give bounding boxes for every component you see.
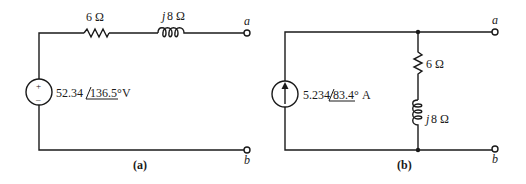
source-b-unit: A (362, 88, 371, 102)
caption-b: (b) (397, 158, 412, 172)
inductor-b (413, 100, 422, 150)
source-a-magnitude: 52.34 (56, 86, 83, 100)
terminal-a-label: a (244, 14, 250, 28)
wire-a-bottom (39, 105, 244, 150)
resistor-a (84, 29, 109, 37)
wire-b-top (285, 32, 492, 81)
inductor-b-label: 8 Ω (431, 112, 449, 126)
source-b-angle: 83.4° (333, 88, 359, 102)
resistor-b-label: 6 Ω (426, 57, 444, 71)
resistor-a-label: 6 Ω (86, 10, 104, 24)
inductor-b-prefix: j (424, 112, 430, 126)
caption-a: (a) (133, 158, 147, 172)
source-a-unit: V (122, 86, 131, 100)
inductor-a-prefix: j (160, 9, 166, 23)
wire-b-bottom (285, 107, 492, 150)
resistor-b (414, 32, 422, 100)
source-b-magnitude: 5.234 (303, 88, 330, 102)
circuit-b: a b 6 Ω j 8 Ω 5.234 83.4° A (b) (272, 13, 498, 172)
terminal-b-label: b (244, 153, 250, 167)
source-a-angle: 136.5° (90, 86, 122, 100)
circuit-diagram: a + – b 6 Ω j 8 Ω 52.34 136.5° V (a) a (0, 0, 526, 184)
circuit-a: a + – b 6 Ω j 8 Ω 52.34 136.5° V (a) (26, 9, 250, 172)
wire-a-left-top (39, 33, 84, 79)
source-minus: – (35, 94, 41, 104)
terminal-a-node[interactable] (244, 30, 250, 36)
terminal-a-label: a (492, 13, 498, 27)
arrow-up-icon (282, 82, 289, 89)
terminal-b-label: b (492, 152, 498, 166)
inductor-a (158, 28, 188, 37)
terminal-a-node[interactable] (492, 29, 498, 35)
inductor-a-label: 8 Ω (167, 9, 185, 23)
source-plus: + (36, 81, 41, 91)
